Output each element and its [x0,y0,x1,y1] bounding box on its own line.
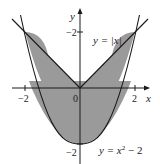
xtick-pos2-label: 2 [132,93,137,104]
origin-label: 0 [73,93,78,104]
y-axis-label: y [69,10,75,22]
ytick-neg2-label: −2 [66,147,77,158]
x-axis-label: x [145,92,151,104]
ytick-pos2-label: −2 [66,27,77,38]
abs-function-label: y = |x| [92,34,122,46]
x-axis-arrow-icon [144,86,150,91]
y-axis-arrow-icon [78,8,83,14]
region-plot: y x 0 −2 2 −2 −2 y = |x| y = x2 − 2 [0,0,160,164]
xtick-neg2-label: −2 [18,93,29,104]
parabola-function-label: y = x2 − 2 [98,144,142,156]
